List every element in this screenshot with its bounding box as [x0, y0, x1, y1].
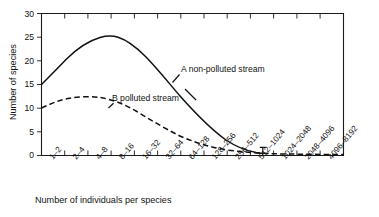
ytick-label-30: 30 [24, 9, 34, 19]
y-axis-title: Number of species [8, 44, 18, 120]
xtick-label-1: 2–4 [71, 145, 87, 162]
chart-figure: 0 5 10 15 20 25 30 1–2 2–4 4–8 8–16 16–3… [0, 0, 379, 217]
x-axis-top-ticks [65, 14, 320, 19]
xtick-label-5: 32–64 [164, 138, 186, 162]
ytick-label-10: 10 [24, 103, 34, 113]
series-b-label: B polluted stream [112, 93, 179, 103]
xtick-label-6: 64–128 [187, 134, 212, 161]
xtick-label-2: 4–8 [94, 145, 110, 162]
ytick-label-20: 20 [24, 56, 34, 66]
series-a-annotation: A non-polluted stream [173, 64, 265, 83]
xtick-label-4: 16–32 [141, 138, 163, 162]
series-a-label: A non-polluted stream [181, 64, 265, 74]
ytick-label-15: 15 [24, 79, 34, 89]
ytick-label-0: 0 [29, 150, 34, 160]
x-axis-title: Number of individuals per species [35, 195, 172, 205]
ytick-label-25: 25 [24, 32, 34, 42]
ytick-label-5: 5 [29, 127, 34, 137]
xtick-label-3: 8–16 [117, 141, 136, 161]
y-axis-tick-labels: 0 5 10 15 20 25 30 [24, 9, 34, 161]
species-abundance-chart: 0 5 10 15 20 25 30 1–2 2–4 4–8 8–16 16–3… [0, 0, 379, 217]
xtick-label-0: 1–2 [48, 145, 64, 162]
